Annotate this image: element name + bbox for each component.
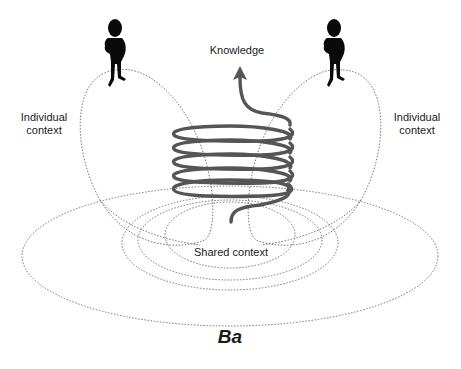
person-left-icon xyxy=(105,19,126,87)
person-right-icon xyxy=(324,19,345,87)
label-line-2: context xyxy=(14,124,74,137)
individual-context-left-label: Individual context xyxy=(14,111,74,137)
ba-label: Ba xyxy=(210,327,250,347)
ba-diagram: Knowledge Individual context Individual … xyxy=(0,0,461,369)
label-line-1: Individual xyxy=(387,111,447,124)
knowledge-label: Knowledge xyxy=(202,44,272,57)
label-line-2: context xyxy=(387,124,447,137)
label-line-1: Individual xyxy=(14,111,74,124)
shared-context-label: Shared context xyxy=(186,246,276,259)
individual-context-right-label: Individual context xyxy=(387,111,447,137)
individual-context-left-loop xyxy=(80,70,213,246)
